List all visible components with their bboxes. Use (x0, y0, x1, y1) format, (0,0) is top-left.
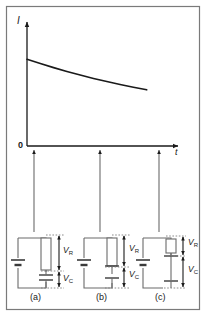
vr-label-c-sub: R (194, 242, 198, 248)
x-axis-label: t (175, 148, 178, 157)
vr-label-b: VR (129, 244, 139, 253)
current-decay-curve (27, 59, 147, 90)
vc-label-c-text: V (188, 264, 194, 274)
vc-label-b-sub: C (135, 274, 139, 280)
vc-label-a-text: V (63, 273, 69, 283)
caption-b: (b) (96, 293, 107, 302)
figure-canvas (0, 0, 206, 316)
circuit-c (136, 238, 180, 289)
vr-label-a-text: V (63, 245, 69, 255)
y-axis-label: I (17, 16, 20, 26)
resistor-b (107, 238, 117, 266)
graph-axes (27, 22, 178, 146)
vr-label-c-text: V (188, 237, 194, 247)
vr-label-a-sub: R (69, 250, 73, 256)
vr-label-a: VR (63, 246, 73, 255)
circuit-a (11, 238, 55, 288)
vc-label-a: VC (63, 274, 73, 283)
vc-label-c-sub: C (194, 269, 198, 275)
vc-label-b-text: V (129, 269, 135, 279)
caption-c: (c) (155, 293, 166, 302)
time-pointer-arrows (34, 150, 159, 232)
resistor-c (166, 239, 176, 253)
circuit-b (77, 238, 121, 288)
vc-label-a-sub: C (69, 278, 73, 284)
origin-label: 0 (18, 141, 23, 150)
vr-label-b-sub: R (135, 248, 139, 254)
caption-a: (a) (30, 293, 41, 302)
vr-label-b-text: V (129, 243, 135, 253)
vc-label-c: VC (188, 265, 198, 274)
figure-rc-discharge: I t 0 VR VC VR VC VR VC (a) (b) (c) (0, 0, 206, 316)
vr-label-c: VR (188, 238, 198, 247)
resistor-a (41, 238, 51, 270)
vc-label-b: VC (129, 270, 139, 279)
